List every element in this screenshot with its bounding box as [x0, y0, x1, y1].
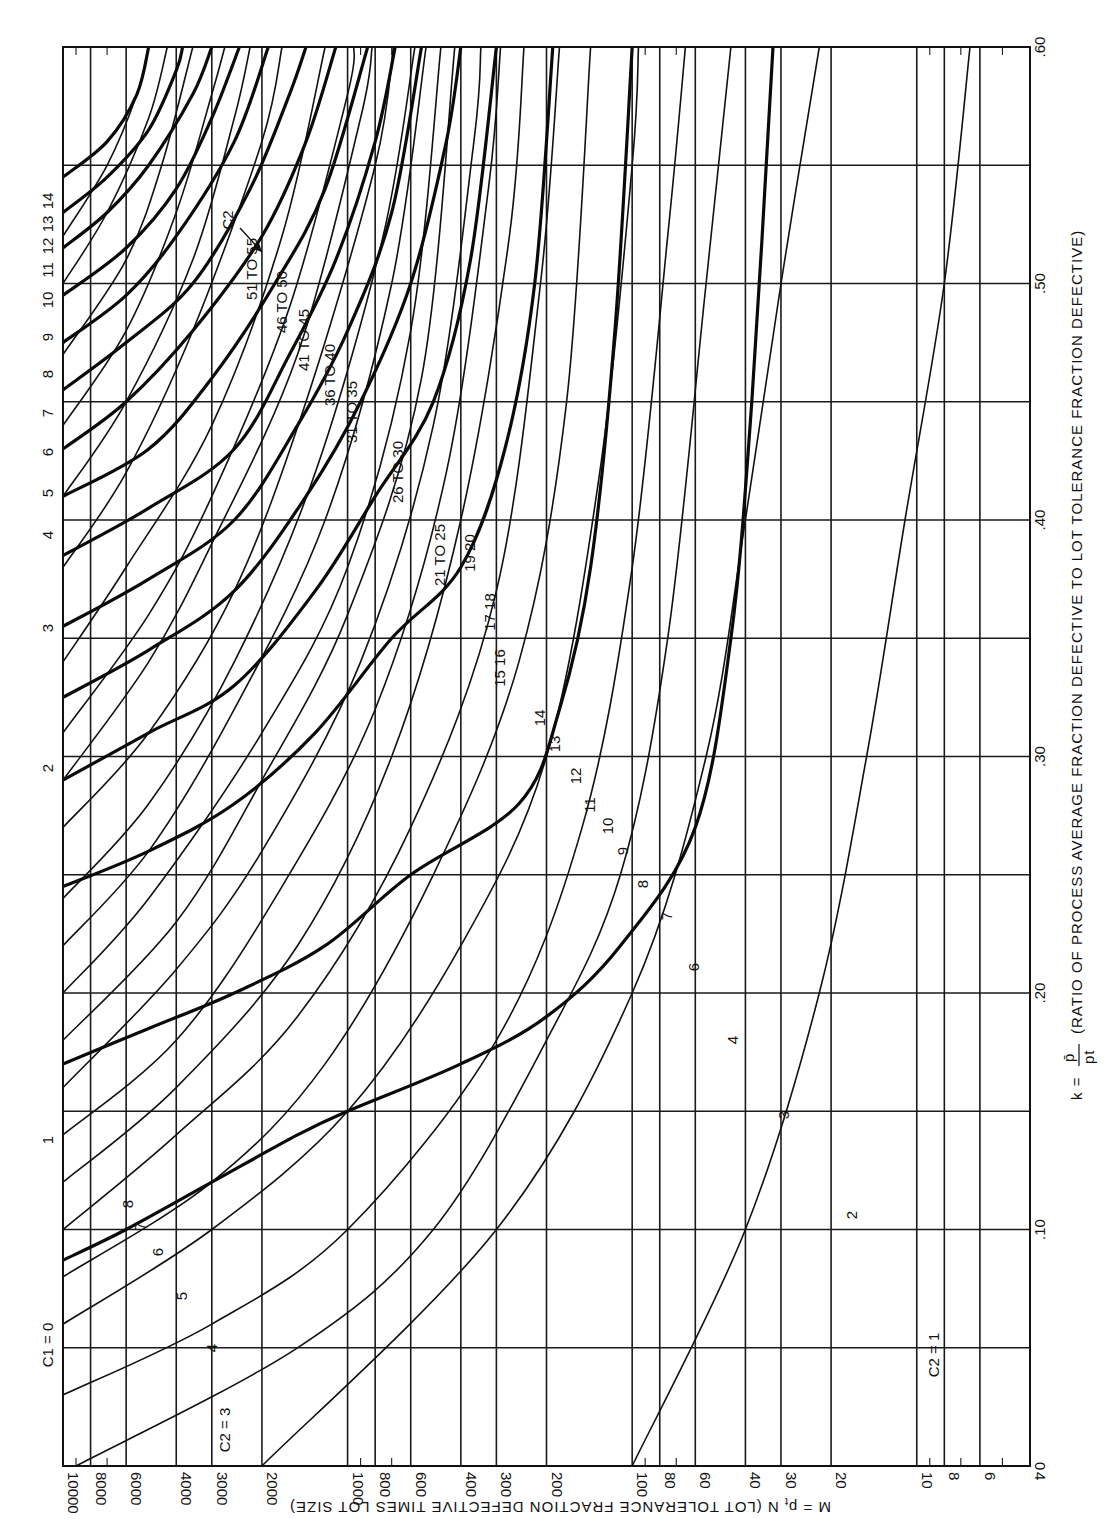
svg-text:6: 6 [149, 1248, 166, 1256]
svg-text:10000: 10000 [65, 1472, 82, 1514]
svg-text:9: 9 [614, 847, 631, 855]
k-axis-description: (RATIO OF PROCESS AVERAGE FRACTION DEFEC… [1068, 230, 1085, 1034]
k-tick-label: .20 [1031, 983, 1048, 1004]
svg-text:.30: .30 [1031, 746, 1048, 767]
m-tick-label: 10000 [65, 1472, 82, 1514]
svg-text:80: 80 [662, 1472, 679, 1489]
svg-text:11: 11 [581, 797, 598, 813]
curve-label: 2 [843, 1211, 860, 1219]
svg-text:6: 6 [39, 448, 56, 456]
m-tick-label: 6 [982, 1472, 999, 1480]
svg-text:4: 4 [203, 1344, 220, 1352]
curve-label: 26 TO 30 [389, 441, 406, 503]
curve-label: 17 18 [481, 593, 498, 631]
curve-label: 21 TO 25 [431, 524, 448, 586]
curve-label: 5 [173, 1292, 190, 1300]
k-axis-numerator: p̄ [1060, 1053, 1077, 1062]
curve-label: 15 16 [491, 649, 508, 687]
curve-label: 8 [634, 880, 651, 888]
m-tick-label: 20 [833, 1472, 850, 1489]
k-tick-label: 0 [1031, 1462, 1048, 1470]
svg-text:60: 60 [697, 1472, 714, 1489]
curve-label: 3 [775, 1111, 792, 1119]
m-tick-label: 6000 [128, 1472, 145, 1505]
curve-label: 4 [724, 1036, 741, 1044]
curve-label: 14 [39, 193, 56, 210]
svg-text:19 20: 19 20 [461, 534, 478, 572]
svg-text:7: 7 [658, 912, 675, 920]
svg-text:C2 = 3: C2 = 3 [216, 1408, 233, 1453]
svg-text:1: 1 [39, 1136, 56, 1144]
svg-text:12: 12 [567, 768, 584, 785]
curve-label: 10 [599, 818, 616, 835]
curve-label: 3 [39, 624, 56, 632]
curve-label: C2 = 1 [925, 1333, 942, 1378]
curve-label: 1 [39, 1136, 56, 1144]
svg-text:36 TO 40: 36 TO 40 [321, 344, 338, 406]
curve-c1-11 [63, 47, 239, 295]
curve-label: 7 [39, 409, 56, 417]
curve-label: C2 [219, 210, 236, 229]
m-tick-label: 3000 [214, 1472, 231, 1505]
svg-text:17 18: 17 18 [481, 593, 498, 631]
svg-text:31 TO 35: 31 TO 35 [343, 381, 360, 443]
svg-text:2000: 2000 [264, 1472, 281, 1505]
m-tick-label: 400 [463, 1472, 480, 1497]
curve-label: 9 [39, 333, 56, 341]
svg-text:6: 6 [982, 1472, 999, 1480]
svg-text:4000: 4000 [178, 1472, 195, 1505]
curve-label: 41 TO 45 [295, 309, 312, 371]
svg-text:10: 10 [599, 818, 616, 835]
m-tick-label: 30 [783, 1472, 800, 1489]
svg-text:7: 7 [39, 409, 56, 417]
m-tick-label: 100 [634, 1472, 651, 1497]
svg-text:5: 5 [39, 489, 56, 497]
svg-text:6000: 6000 [128, 1472, 145, 1505]
svg-text:26 TO 30: 26 TO 30 [389, 441, 406, 503]
m-tick-label: 4 [1032, 1472, 1049, 1480]
curve-label: 6 [685, 963, 702, 971]
svg-text:7: 7 [131, 1222, 148, 1230]
m-tick-label: 40 [747, 1472, 764, 1489]
svg-text:10: 10 [919, 1472, 936, 1489]
svg-text:5: 5 [173, 1292, 190, 1300]
curve-label: 36 TO 40 [321, 344, 338, 406]
curve-label: C1 = 0 [39, 1323, 56, 1368]
svg-text:600: 600 [413, 1472, 430, 1497]
curve-label: 11 [39, 262, 56, 278]
curve-label: 8 [39, 370, 56, 378]
curve-label: 9 [614, 847, 631, 855]
curve-label: 4 [203, 1344, 220, 1352]
svg-text:3: 3 [775, 1111, 792, 1119]
svg-text:4: 4 [1032, 1472, 1049, 1480]
svg-text:C1 = 0: C1 = 0 [39, 1323, 56, 1368]
svg-text:30: 30 [783, 1472, 800, 1489]
m-tick-label: 8 [946, 1472, 963, 1480]
curve-label: 31 TO 35 [343, 381, 360, 443]
curve-c1-10 [63, 47, 268, 343]
curve-label: 13 [39, 216, 56, 233]
k-tick-label: .50 [1031, 273, 1048, 294]
curve-label: 8 [119, 1200, 136, 1208]
k-tick-label: .30 [1031, 746, 1048, 767]
svg-text:800: 800 [377, 1472, 394, 1497]
curve-label: 12 [567, 768, 584, 785]
svg-text:14: 14 [39, 193, 56, 210]
m-tick-label: 8000 [93, 1472, 110, 1505]
k-axis-title: k = p̄ pt (RATIO OF PROCESS AVERAGE FRAC… [1060, 230, 1097, 1100]
m-tick-label: 800 [377, 1472, 394, 1497]
curve-c1-2 [63, 47, 553, 887]
svg-text:4: 4 [724, 1036, 741, 1044]
k-axis-denominator: pt [1080, 1049, 1097, 1064]
svg-text:300: 300 [498, 1472, 515, 1497]
m-tick-label: 300 [498, 1472, 515, 1497]
curve-label: 14 [531, 710, 548, 727]
svg-text:9: 9 [39, 333, 56, 341]
svg-text:2: 2 [39, 764, 56, 772]
svg-text:200: 200 [549, 1472, 566, 1497]
svg-text:.60: .60 [1031, 37, 1048, 58]
curve-label: 6 [39, 448, 56, 456]
curve-label: 5 [39, 489, 56, 497]
m-tick-label: 200 [549, 1472, 566, 1497]
curve-label: 11 [581, 797, 598, 813]
